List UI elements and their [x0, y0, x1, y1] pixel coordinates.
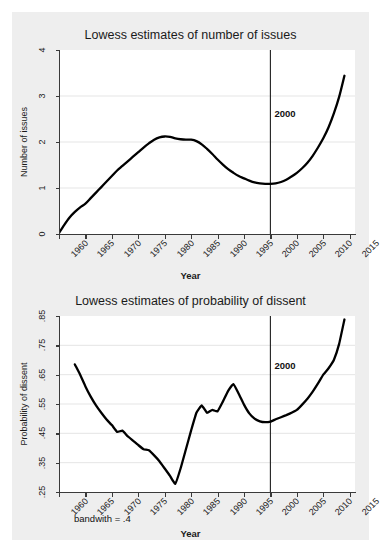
y-tick-mark — [56, 345, 60, 346]
y-tick-label: 4 — [37, 39, 47, 61]
y-axis-title-issues: Number of issues — [19, 50, 29, 234]
series-line — [75, 320, 345, 484]
vline-label-2000-issues: 2000 — [274, 108, 295, 119]
x-tick-mark — [59, 493, 60, 497]
chart-title-dissent: Lowess estimates of probability of disse… — [12, 294, 369, 308]
y-axis-line-issues — [59, 50, 60, 235]
x-tick-label: 1975 — [148, 238, 169, 259]
y-tick-label: .55 — [37, 393, 47, 415]
x-tick-mark — [165, 235, 166, 239]
x-tick-mark — [191, 493, 192, 497]
y-tick-mark — [56, 50, 60, 51]
y-tick-mark — [56, 142, 60, 143]
x-tick-mark — [323, 235, 324, 239]
y-tick-label: .65 — [37, 364, 47, 386]
y-axis-line-dissent — [59, 316, 60, 493]
x-tick-mark — [138, 235, 139, 239]
x-tick-mark — [297, 493, 298, 497]
y-tick-mark — [56, 316, 60, 317]
x-tick-mark — [218, 235, 219, 239]
x-tick-mark — [297, 235, 298, 239]
x-tick-label: 1990 — [227, 238, 248, 259]
graph-region: Lowess estimates of number of issues Num… — [12, 12, 369, 540]
x-tick-mark — [350, 235, 351, 239]
x-axis-line-dissent — [59, 492, 356, 493]
x-axis-title-dissent: Year — [12, 528, 369, 539]
x-tick-mark — [270, 235, 271, 239]
x-tick-label: 2015 — [360, 238, 381, 259]
y-tick-mark — [56, 433, 60, 434]
plot-area-dissent — [59, 316, 355, 492]
vline-label-2000-dissent: 2000 — [274, 360, 295, 371]
y-tick-mark — [56, 404, 60, 405]
y-tick-label: .75 — [37, 334, 47, 356]
y-tick-label: .85 — [37, 305, 47, 327]
x-tick-mark — [112, 235, 113, 239]
x-tick-mark — [112, 493, 113, 497]
y-tick-mark — [56, 463, 60, 464]
figure-page: Lowess estimates of number of issues Num… — [0, 0, 381, 556]
x-tick-mark — [218, 493, 219, 497]
x-tick-mark — [165, 493, 166, 497]
x-axis-line-issues — [59, 234, 356, 235]
x-tick-label: 1985 — [201, 238, 222, 259]
x-tick-mark — [244, 493, 245, 497]
y-tick-label: 3 — [37, 85, 47, 107]
x-tick-mark — [350, 493, 351, 497]
y-tick-label: .25 — [37, 481, 47, 503]
plot-svg-dissent — [59, 316, 355, 492]
x-tick-label: 1985 — [201, 496, 222, 517]
x-tick-label: 2000 — [280, 238, 301, 259]
bandwidth-note: bandwith = .4 — [74, 513, 131, 524]
x-tick-label: 1970 — [122, 238, 143, 259]
chart-panel-dissent: Lowess estimates of probability of disse… — [12, 282, 369, 540]
x-tick-label: 2005 — [307, 238, 328, 259]
x-tick-mark — [59, 235, 60, 239]
x-tick-mark — [323, 493, 324, 497]
x-tick-label: 2005 — [307, 496, 328, 517]
x-tick-label: 1980 — [175, 496, 196, 517]
x-tick-label: 1980 — [175, 238, 196, 259]
x-tick-mark — [138, 493, 139, 497]
x-tick-label: 1960 — [69, 238, 90, 259]
y-axis-title-dissent: Probability of dissent — [19, 316, 29, 492]
x-tick-label: 1990 — [227, 496, 248, 517]
x-tick-label: 2000 — [280, 496, 301, 517]
x-tick-label: 2010 — [333, 238, 354, 259]
y-tick-label: 0 — [37, 223, 47, 245]
x-tick-mark — [270, 493, 271, 497]
x-tick-mark — [85, 493, 86, 497]
x-tick-mark — [244, 235, 245, 239]
x-tick-label: 2015 — [360, 496, 381, 517]
x-tick-label: 1995 — [254, 238, 275, 259]
plot-svg-issues — [59, 50, 355, 234]
y-tick-mark — [56, 96, 60, 97]
y-tick-mark — [56, 188, 60, 189]
x-axis-title-issues: Year — [12, 270, 369, 281]
y-tick-label: .45 — [37, 422, 47, 444]
x-tick-label: 1995 — [254, 496, 275, 517]
y-tick-mark — [56, 375, 60, 376]
x-tick-mark — [85, 235, 86, 239]
plot-area-issues — [59, 50, 355, 234]
x-tick-label: 1965 — [95, 238, 116, 259]
y-tick-label: 1 — [37, 177, 47, 199]
y-tick-label: .35 — [37, 452, 47, 474]
series-line — [59, 76, 344, 233]
x-tick-label: 2010 — [333, 496, 354, 517]
chart-title-issues: Lowess estimates of number of issues — [12, 28, 369, 42]
y-tick-label: 2 — [37, 131, 47, 153]
x-tick-label: 1975 — [148, 496, 169, 517]
chart-panel-issues: Lowess estimates of number of issues Num… — [12, 12, 369, 282]
x-tick-mark — [191, 235, 192, 239]
